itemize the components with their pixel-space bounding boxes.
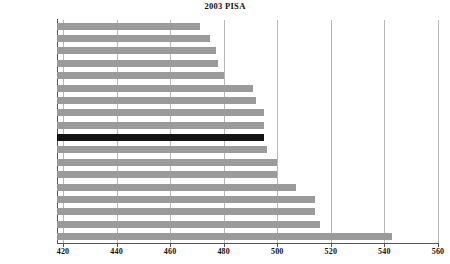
- tick-label: 540: [364, 247, 404, 256]
- bar-row: France: [57, 144, 438, 156]
- bar-row: Greece: [57, 20, 438, 32]
- bar-sweden: [57, 208, 315, 215]
- bar-spain: [57, 72, 224, 79]
- tick-label: 420: [43, 247, 83, 256]
- bar-iceland: [57, 122, 264, 129]
- bar-greece: [57, 23, 200, 30]
- bar-row: Finland: [57, 231, 438, 243]
- tick-label: 500: [257, 247, 297, 256]
- bar-row: Italy: [57, 32, 438, 44]
- bar-row: Ireland: [57, 218, 438, 230]
- bar-row: Iceland: [57, 119, 438, 131]
- bar-italy: [57, 35, 210, 42]
- pisa-bar-chart: 2003 PISA GreeceItalyPortugalLuxembourgS…: [0, 0, 450, 264]
- bar-austria: [57, 97, 256, 104]
- bar-denmark: [57, 109, 264, 116]
- tick-label: 460: [150, 247, 190, 256]
- bar-united-states: [57, 134, 264, 141]
- bar-netherlands: [57, 196, 315, 203]
- bar-row: Portugal: [57, 45, 438, 57]
- plot-area: GreeceItalyPortugalLuxembourgSpainGerman…: [57, 20, 438, 243]
- tick-label: 560: [418, 247, 450, 256]
- bar-row: Austria: [57, 94, 438, 106]
- bar-luxembourg: [57, 60, 218, 67]
- x-axis-line: [57, 243, 439, 244]
- bar-row: Norway: [57, 169, 438, 181]
- tick-label: 520: [311, 247, 351, 256]
- bar-switzerland: [57, 159, 277, 166]
- gridline-560: [438, 20, 439, 243]
- bar-france: [57, 146, 267, 153]
- bar-row: Germany: [57, 82, 438, 94]
- bar-row: Netherlands: [57, 193, 438, 205]
- bar-row: United States: [57, 132, 438, 144]
- tick-label: 440: [97, 247, 137, 256]
- chart-title: 2003 PISA: [0, 1, 450, 11]
- bar-row: Denmark: [57, 107, 438, 119]
- bar-finland: [57, 233, 392, 240]
- bar-row: Belgium: [57, 181, 438, 193]
- bar-row: Switzerland: [57, 156, 438, 168]
- tick-label: 480: [204, 247, 244, 256]
- bar-belgium: [57, 184, 296, 191]
- bar-portugal: [57, 47, 216, 54]
- bar-row: Luxembourg: [57, 57, 438, 69]
- bar-germany: [57, 85, 253, 92]
- bar-norway: [57, 171, 277, 178]
- bar-ireland: [57, 221, 320, 228]
- bar-row: Spain: [57, 70, 438, 82]
- bar-row: Sweden: [57, 206, 438, 218]
